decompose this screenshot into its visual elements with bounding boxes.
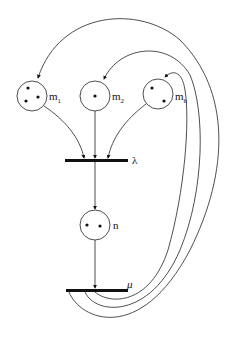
label-mu: μ [127, 279, 133, 290]
token [150, 86, 153, 89]
arc-m1-lambda [44, 106, 84, 158]
token [98, 224, 101, 227]
arc-mu-mh [95, 73, 187, 299]
token [85, 223, 88, 226]
token [26, 86, 29, 89]
place-mh [143, 79, 173, 109]
token [162, 99, 165, 102]
token [36, 95, 39, 98]
place-n [80, 210, 110, 240]
transition-mu [66, 289, 128, 292]
transition-lambda [65, 159, 128, 162]
label-m2: m2 [112, 91, 124, 105]
token [93, 94, 96, 97]
place-m1 [17, 81, 47, 111]
label-n: n [113, 220, 119, 231]
petri-net-diagram [0, 0, 231, 337]
arc-mu-m1 [38, 19, 219, 318]
label-m1: m1 [49, 91, 61, 105]
arc-mh-lambda [108, 104, 146, 158]
label-lambda: λ [132, 155, 137, 166]
label-mh: mh [175, 91, 187, 105]
token [24, 99, 27, 102]
